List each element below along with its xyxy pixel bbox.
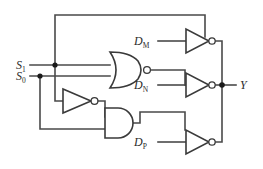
inverter-p (186, 130, 215, 154)
inverter-n-bubble (209, 82, 215, 88)
wire-and-to-inverter-p (131, 112, 185, 130)
and-gate (105, 108, 133, 138)
junction-s0-tap (37, 73, 42, 78)
not-gate (63, 89, 98, 113)
wire-not-to-and (98, 101, 105, 117)
nor-gate-bubble (144, 67, 151, 74)
inverter-m (186, 29, 215, 53)
nor-gate (110, 52, 150, 88)
label-dn-subscript: N (143, 85, 149, 94)
inverter-n (186, 73, 215, 97)
junction-y-node (219, 82, 225, 88)
label-dn-base: D (133, 78, 143, 92)
wire-s1-to-not (55, 65, 63, 101)
label-s1-subscript: 1 (22, 65, 26, 74)
label-dp-base: D (133, 135, 143, 149)
wire-inverter-m-out (213, 41, 222, 85)
label-dn: DN (133, 78, 149, 94)
label-y: Y (240, 78, 248, 92)
schematic-svg: S1 S0 DM DN DP Y (0, 0, 263, 169)
not-gate-bubble (91, 98, 98, 105)
junction-s1-tap (52, 62, 57, 67)
label-dp: DP (133, 135, 147, 151)
label-dm-base: D (133, 34, 143, 48)
label-dm-subscript: M (143, 41, 150, 50)
wire-inverter-p-out (213, 85, 222, 142)
not-gate-body (63, 89, 91, 113)
inverter-p-body (186, 130, 209, 154)
circuit-diagram: S1 S0 DM DN DP Y (0, 0, 263, 169)
inverter-m-bubble (209, 38, 215, 44)
inverter-n-body (186, 73, 209, 97)
and-gate-body (105, 108, 133, 138)
label-group: S1 S0 DM DN DP Y (16, 34, 248, 151)
label-dp-subscript: P (143, 142, 147, 151)
label-dm: DM (133, 34, 150, 50)
inverter-p-bubble (209, 139, 215, 145)
label-s0-subscript: 0 (22, 76, 26, 85)
